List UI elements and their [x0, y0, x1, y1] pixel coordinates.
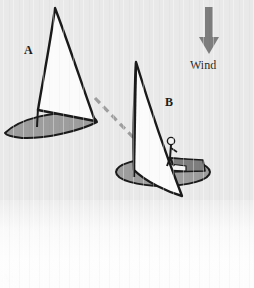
boat-a-sail: [38, 8, 95, 121]
boat-b-label: B: [165, 95, 173, 110]
wind-label: Wind: [190, 58, 216, 73]
boat-b-sail: [134, 62, 182, 196]
figure-caption: re A:: [0, 270, 15, 286]
boat-b: [116, 62, 210, 196]
boat-a-mast: [37, 108, 38, 127]
boat-a-label: A: [24, 43, 33, 58]
figure-canvas: A B Wind re A:: [0, 0, 254, 288]
wind-arrow-icon: [199, 7, 219, 54]
boat-a: [5, 8, 97, 138]
sailboat-diagram: [0, 0, 254, 288]
